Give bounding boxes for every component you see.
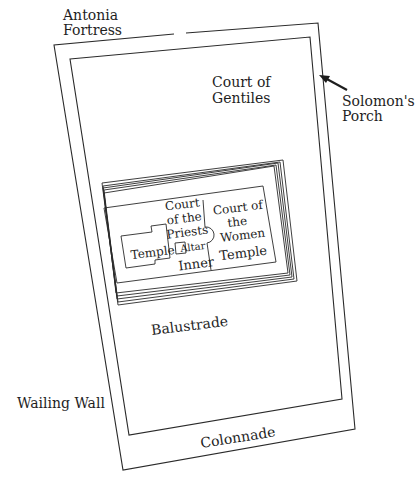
label-temple: Temple xyxy=(130,243,176,262)
label-solomon-2: Porch xyxy=(342,108,383,124)
label-colonnade: Colonnade xyxy=(199,423,276,451)
label-gentiles-1: Court of xyxy=(212,74,272,90)
label-antonia-2: Fortress xyxy=(63,22,122,38)
label-altar: Altar xyxy=(179,240,207,254)
label-women-3: Women xyxy=(219,226,266,245)
label-gentiles-2: Gentiles xyxy=(212,90,271,106)
label-balustrade: Balustrade xyxy=(150,313,229,338)
label-wailing-wall: Wailing Wall xyxy=(17,395,105,411)
label-women-temple: Temple xyxy=(219,243,269,264)
label-antonia-1: Antonia xyxy=(62,7,118,23)
temple-mount-diagram: Antonia Fortress Court of Gentiles Solom… xyxy=(0,0,420,489)
label-solomon-1: Solomon's xyxy=(342,93,415,109)
